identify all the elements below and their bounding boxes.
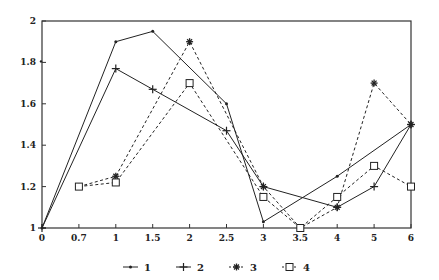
series-layer (38, 30, 415, 232)
square-marker (112, 179, 119, 186)
square-marker (286, 264, 293, 271)
y-tick-label: 1.4 (20, 140, 36, 150)
dot-marker (262, 220, 265, 223)
x-axis-ticks: 00.711.522.533.5456 (39, 224, 414, 243)
dot-marker (151, 30, 154, 33)
dot-shape (336, 175, 339, 178)
legend-item-2: 2 (176, 262, 204, 273)
square-shape (408, 183, 415, 190)
square-shape (371, 162, 378, 169)
square-marker (260, 193, 267, 200)
series-line (79, 42, 411, 228)
square-shape (297, 225, 304, 232)
dot-shape (114, 40, 117, 43)
plus-marker (112, 65, 120, 73)
y-tick-label: 1.2 (20, 182, 36, 192)
square-shape (75, 183, 82, 190)
x-tick-label: 3 (260, 233, 266, 243)
square-marker (371, 162, 378, 169)
square-marker (408, 183, 415, 190)
square-marker (297, 225, 304, 232)
annotation-layer (40, 60, 42, 62)
series-line (42, 69, 411, 228)
asterisk-marker (334, 204, 341, 211)
square-shape (334, 193, 341, 200)
x-tick-label: 6 (408, 233, 414, 243)
dot-shape (225, 102, 228, 105)
asterisk-marker (186, 38, 193, 45)
x-tick-label: 1 (113, 233, 119, 243)
x-tick-label: 0.7 (71, 233, 87, 243)
legend-label: 2 (197, 262, 204, 273)
x-tick-label: 4 (334, 233, 340, 243)
legend-item-1: 1 (123, 262, 151, 273)
square-shape (186, 80, 193, 87)
square-marker (75, 183, 82, 190)
x-tick-label: 0 (39, 233, 45, 243)
series-3 (75, 38, 414, 231)
legend-label: 4 (303, 262, 310, 273)
x-tick-label: 2.5 (219, 233, 235, 243)
series-4 (75, 80, 414, 232)
dot-marker (114, 40, 117, 43)
y-tick-label: 1.6 (20, 99, 36, 109)
x-tick-label: 3.5 (292, 233, 308, 243)
legend-item-3: 3 (229, 262, 257, 273)
dot-marker (225, 102, 228, 105)
plus-marker (180, 263, 188, 271)
series-line (79, 83, 411, 228)
square-shape (112, 179, 119, 186)
dot-shape (262, 220, 265, 223)
square-marker (186, 80, 193, 87)
dot-marker (336, 175, 339, 178)
legend-label: 3 (250, 262, 257, 273)
x-tick-label: 1.5 (145, 233, 161, 243)
square-shape (260, 193, 267, 200)
dot-shape (151, 30, 154, 33)
stray-dot (40, 60, 42, 62)
legend: 1234 (123, 262, 310, 273)
legend-item-4: 4 (282, 262, 310, 273)
series-2 (38, 65, 415, 232)
x-tick-label: 5 (371, 233, 377, 243)
y-tick-label: 1 (30, 223, 36, 233)
asterisk-marker (408, 121, 415, 128)
x-tick-label: 2 (186, 233, 192, 243)
plus-marker (370, 183, 378, 191)
legend-label: 1 (144, 262, 151, 273)
dot-shape (129, 266, 132, 269)
dot-marker (129, 266, 132, 269)
y-tick-label: 2 (30, 16, 36, 26)
y-tick-label: 1.8 (20, 57, 36, 67)
plus-marker (38, 224, 46, 232)
asterisk-marker (233, 264, 240, 271)
plus-marker (149, 85, 157, 93)
plus-marker (223, 127, 231, 135)
square-marker (334, 193, 341, 200)
asterisk-marker (260, 183, 267, 190)
square-shape (286, 264, 293, 271)
line-chart: 11.21.41.61.82 00.711.522.533.5456 1234 (0, 0, 439, 280)
